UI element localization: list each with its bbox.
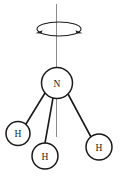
bond-group — [26, 93, 91, 143]
atom-label-hydrogen-left: H — [14, 129, 21, 139]
bond-n-h-left — [26, 93, 45, 124]
atom-label-hydrogen-bottom: H — [41, 152, 48, 162]
rotation-arrowhead-left-icon — [36, 30, 43, 33]
molecule-canvas: NHHH — [0, 0, 120, 178]
bond-n-h-right — [68, 94, 91, 137]
atom-label-hydrogen-right: H — [95, 143, 102, 153]
atom-hydrogen-bottom: H — [32, 143, 58, 169]
bond-n-h-bottom — [45, 98, 53, 143]
atom-hydrogen-left: H — [6, 122, 30, 146]
molecule-diagram: NHHH — [0, 0, 120, 178]
atom-label-nitrogen: N — [53, 79, 60, 89]
atom-group: NHHH — [6, 68, 112, 170]
rotation-arrow-ellipse — [37, 22, 81, 36]
atom-hydrogen-right: H — [86, 134, 112, 160]
rotation-arrowhead-right-icon — [76, 30, 83, 33]
atom-nitrogen: N — [42, 68, 73, 99]
